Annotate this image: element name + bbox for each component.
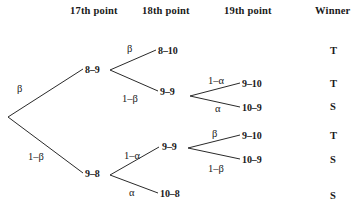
winner-value: S [330,102,336,113]
winner-value: S [330,155,336,166]
tree-node-label: 9–9 [162,142,177,152]
decision-tree-figure: 17th point18th point19th pointWinner 8–9… [0,0,358,210]
tree-node-label: 8–9 [85,65,100,75]
tree-node-label: 9–10 [242,131,262,141]
tree-edge [110,70,158,91]
branch-probability-label: 1–β [122,94,138,105]
branch-probability-label: 1–α [124,151,140,162]
tree-edge [110,50,156,70]
branch-probability-label: 1–α [208,76,224,87]
branch-probability-label: 1–β [28,152,44,163]
tree-node-label: 9–9 [160,87,175,97]
tree-edges-layer [0,0,358,210]
branch-probability-label: β [17,84,22,95]
column-header: 18th point [142,6,190,17]
tree-node-label: 10–9 [242,103,262,113]
column-header: 19th point [224,6,272,17]
tree-edge [8,117,83,173]
column-header: Winner [315,6,350,17]
winner-value: T [330,131,337,142]
column-header: 17th point [70,6,118,17]
winner-value: S [330,191,336,202]
tree-node-label: 9–10 [242,79,262,89]
winner-value: T [330,46,337,57]
branch-probability-label: α [215,104,221,115]
tree-node-label: 8–10 [158,46,178,56]
branch-probability-label: β [212,129,217,140]
winner-value: T [330,79,337,90]
tree-node-label: 10–9 [242,155,262,165]
branch-probability-label: β [127,44,132,55]
tree-node-label: 9–8 [85,169,100,179]
tree-edge [188,148,240,159]
tree-node-label: 10–8 [160,189,180,199]
branch-probability-label: α [129,188,135,199]
branch-probability-label: 1–β [208,164,224,175]
